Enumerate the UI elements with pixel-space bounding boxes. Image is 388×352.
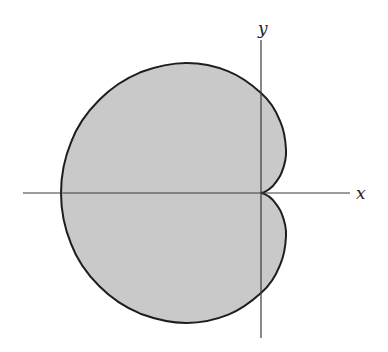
y-axis-label: y xyxy=(257,18,268,38)
cardioid-diagram: x y xyxy=(0,0,388,352)
x-axis-label: x xyxy=(356,183,366,203)
